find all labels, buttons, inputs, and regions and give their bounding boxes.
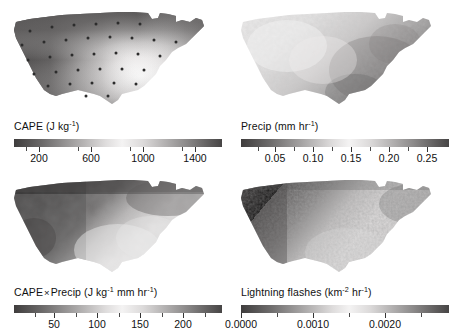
map-cape xyxy=(0,0,227,120)
colorbar-lightning xyxy=(241,305,449,313)
colorbar-label-cape: CAPE (J kg-1) xyxy=(14,120,79,132)
colorbar-ticklabels-cape: 200 600 1000 1400 xyxy=(14,152,222,166)
colorbar-cape-precip xyxy=(14,305,222,313)
map-precip xyxy=(227,0,454,120)
colorbar-cape xyxy=(14,139,222,147)
cape-label-text: CAPE (J kg xyxy=(14,120,69,132)
colorbar-label-cape-precip: CAPE×Precip (J kg-1 mm hr-1) xyxy=(14,286,157,298)
lightning-field xyxy=(227,168,454,288)
cape-label-exp: -1 xyxy=(69,119,76,128)
figure-canvas: CAPE (J kg-1) 200 600 1000 1400 xyxy=(0,0,454,336)
cp-label-tail: ) xyxy=(154,286,158,298)
cape-field xyxy=(0,0,227,120)
cp-label-exp1: -1 xyxy=(107,285,114,294)
map-lightning xyxy=(227,168,454,288)
panel-cape: CAPE (J kg-1) 200 600 1000 1400 xyxy=(0,0,227,168)
precip-tick-005: 0.05 xyxy=(265,152,285,164)
map-lightning-svg xyxy=(227,168,454,288)
cape-precip-field xyxy=(0,168,227,288)
precip-label-text: Precip (mm hr xyxy=(241,120,308,132)
cp-tick-150: 150 xyxy=(131,318,149,330)
map-cape-svg xyxy=(0,0,227,120)
cape-tick-600: 600 xyxy=(82,152,100,164)
cp-tick-200: 200 xyxy=(174,318,192,330)
panel-cape-precip: CAPE×Precip (J kg-1 mm hr-1) 50 100 150 … xyxy=(0,168,227,336)
cape-tick-1400: 1400 xyxy=(183,152,206,164)
precip-tick-025: 0.25 xyxy=(417,152,437,164)
lt-label-tail: ) xyxy=(368,286,372,298)
precip-field xyxy=(227,0,454,120)
precip-tick-010: 0.10 xyxy=(303,152,323,164)
colorbar-ticklabels-precip: 0.05 0.10 0.15 0.20 0.25 xyxy=(241,152,449,166)
cp-tick-100: 100 xyxy=(88,318,106,330)
cp-label-exp2: -1 xyxy=(147,285,154,294)
cape-label-tail: ) xyxy=(76,120,80,132)
colorbar-ticklabels-cape-precip: 50 100 150 200 xyxy=(14,318,222,332)
cp-tick-50: 50 xyxy=(48,318,60,330)
colorbar-label-lightning: Lightning flashes (km-2 hr-1) xyxy=(241,286,372,298)
colorbar-ticklabels-lightning: 0.0000 0.0010 0.0020 xyxy=(241,318,449,332)
cp-label-b: Precip (J kg xyxy=(51,286,108,298)
cp-label-a: CAPE xyxy=(14,286,43,298)
precip-tick-015: 0.15 xyxy=(341,152,361,164)
lt-label-exp1: -2 xyxy=(342,285,349,294)
lt-label-mid: hr xyxy=(349,286,362,298)
panel-precip: Precip (mm hr-1) 0.05 0.10 0.15 0.20 0.2… xyxy=(227,0,454,168)
precip-label-exp: -1 xyxy=(308,119,315,128)
colorbar-precip xyxy=(241,139,449,147)
panel-lightning: Lightning flashes (km-2 hr-1) 0.0000 0.0… xyxy=(227,168,454,336)
map-cape-precip-svg xyxy=(0,168,227,288)
precip-tick-020: 0.20 xyxy=(379,152,399,164)
cp-label-mid: mm hr xyxy=(114,286,147,298)
lt-tick-0010: 0.0010 xyxy=(297,318,329,330)
precip-label-tail: ) xyxy=(315,120,319,132)
lt-label-text: Lightning flashes (km xyxy=(241,286,342,298)
lt-tick-0000: 0.0000 xyxy=(225,318,257,330)
cape-tick-1000: 1000 xyxy=(131,152,154,164)
map-precip-svg xyxy=(227,0,454,120)
lt-tick-0020: 0.0020 xyxy=(369,318,401,330)
colorbar-label-precip: Precip (mm hr-1) xyxy=(241,120,318,132)
multiply-icon: × xyxy=(43,287,51,298)
map-cape-precip xyxy=(0,168,227,288)
cape-tick-200: 200 xyxy=(30,152,48,164)
